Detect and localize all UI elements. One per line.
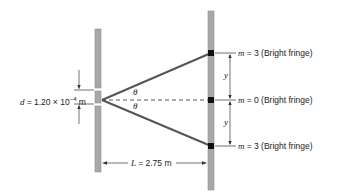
barrier-upper [95,29,101,88]
fringe-marker-top [208,50,214,56]
d-symbol: d [20,97,25,107]
slit-barrier [95,29,101,172]
fringe-label-m3-bottom: m = 3 (Bright fringe) [238,142,313,151]
fringe-marker-center [208,97,214,103]
fringe-label-m0: m = 0 (Bright fringe) [238,96,313,105]
ray-upper [102,53,211,100]
y-label-lower: y [224,118,228,127]
rays [102,53,211,146]
ray-lower [102,100,211,146]
barrier-middle [95,91,101,103]
fringe-leaders [215,53,236,146]
fringe-label-m3-top: m = 3 (Bright fringe) [238,49,313,58]
slit-separation-label: d = 1.20 × 10−4 m [20,96,86,107]
double-slit-diagram: d = 1.20 × 10−4 m θ θ y y m = 3 (Bright … [0,0,339,195]
barrier-lower [95,106,101,172]
theta-label-lower: θ [133,102,137,111]
screen-distance-label: L = 2.75 m [131,159,171,168]
y-label-upper: y [224,71,228,80]
fringe-marker-bottom [208,143,214,149]
theta-label-upper: θ [133,88,137,97]
y-dimension-arrows [228,54,231,145]
